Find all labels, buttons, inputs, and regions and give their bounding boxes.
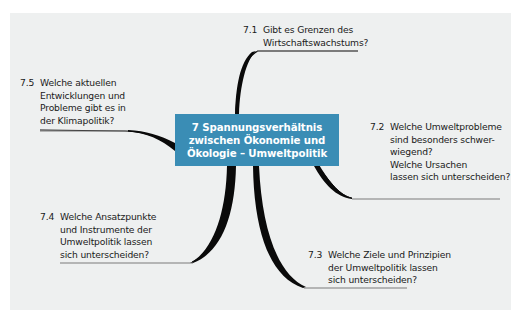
node-text-line: Umweltpolitik lassen [60, 236, 156, 249]
node-text-line: Gibt es Grenzen des [263, 24, 368, 37]
node-text-line: Probleme gibt es in [40, 102, 126, 115]
node-text-line: Wirtschaftswachstums? [263, 37, 368, 50]
center-topic-line-2: zwischen Ökonomie und [187, 134, 327, 147]
node-text-line: Welche aktuellen [40, 77, 126, 90]
node-text-line: sind besonders schwer- [390, 134, 510, 147]
node-number: 7.1 [243, 24, 257, 37]
node-text-line: Entwicklungen und [40, 90, 126, 103]
node-text-line: und Instrumente der [60, 224, 156, 237]
node-number: 7.2 [370, 121, 384, 134]
branch-7-1 [236, 51, 358, 114]
node-text-line: der Klimapolitik? [40, 115, 126, 128]
node-text-line: Welche Ziele und Prinzipien [328, 249, 451, 262]
node-text-line: lassen sich unterscheiden? [390, 171, 510, 184]
node-text-line: Welche Umweltprobleme [390, 121, 510, 134]
center-topic-box: 7 Spannungsverhältnis zwischen Ökonomie … [175, 114, 339, 166]
node-number: 7.3 [308, 249, 322, 262]
node-number: 7.5 [20, 77, 34, 90]
node-text-line: sich unterscheiden? [328, 274, 451, 287]
node-number: 7.4 [40, 211, 54, 224]
node-text-line: sich unterscheiden? [60, 249, 156, 262]
node-text-line: Welche Ansatzpunkte [60, 211, 156, 224]
center-topic-line-1: 7 Spannungsverhältnis [187, 121, 327, 134]
node-text-line: wiegend? [390, 146, 510, 159]
center-topic-line-3: Ökologie – Umweltpolitik [187, 147, 327, 160]
node-text-line: Welche Ursachen [390, 159, 510, 172]
node-text-line: der Umweltpolitik lassen [328, 262, 451, 275]
